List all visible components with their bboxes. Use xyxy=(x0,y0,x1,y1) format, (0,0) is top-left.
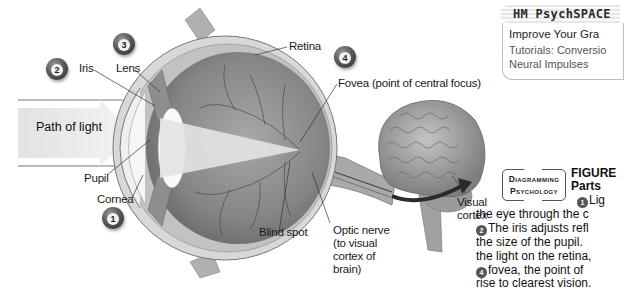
caption-line-3: 2The iris adjusts refl xyxy=(476,221,589,236)
badge-cornea: 1 xyxy=(102,207,124,229)
caption-text: the size of the pupil. xyxy=(476,235,583,249)
tag-line2: Psychology xyxy=(502,186,566,196)
label-blind-spot: Blind spot xyxy=(259,226,308,239)
psychspace-line3[interactable]: Neural Impulses xyxy=(509,58,588,70)
caption-text: Lig xyxy=(589,193,605,207)
caption-line-4: the size of the pupil. xyxy=(476,235,583,249)
caption-text: the eye through the c xyxy=(476,207,589,221)
label-fovea: Fovea (point of central focus) xyxy=(338,77,481,90)
caption-text: fovea, the point of xyxy=(488,263,583,277)
diagramming-psychology-tag: Diagramming Psychology xyxy=(502,169,566,201)
label-cornea: Cornea xyxy=(97,193,134,206)
psychspace-line2[interactable]: Tutorials: Conversio xyxy=(509,44,606,56)
label-optic-nerve-3: cortex of xyxy=(333,250,375,263)
label-retina: Retina xyxy=(289,40,321,53)
caption-text: The iris adjusts refl xyxy=(488,221,589,235)
caption-line-7: rise to clearest vision. xyxy=(476,276,591,290)
label-lens: Lens xyxy=(116,62,140,75)
label-path-of-light: Path of light xyxy=(36,120,102,134)
badge-iris: 2 xyxy=(46,58,68,80)
caption-line-1: 1Lig xyxy=(577,193,605,208)
figure-subtitle: Parts xyxy=(571,179,601,193)
caption-line-2: the eye through the c xyxy=(476,207,589,221)
caption-line-5: the light on the retina, xyxy=(476,249,591,263)
label-optic-nerve-4: brain) xyxy=(333,263,361,276)
badge-lens: 3 xyxy=(113,33,135,55)
tag-frame-gap xyxy=(524,167,542,172)
label-optic-nerve-2: (to visual xyxy=(333,237,377,250)
psychspace-header: HM PsychSPACE xyxy=(513,7,611,21)
tag-frame-gap xyxy=(524,198,542,203)
brain-illustration xyxy=(379,100,485,252)
psychspace-line1: Improve Your Gra xyxy=(509,28,599,40)
psychspace-box[interactable]: HM PsychSPACE Improve Your Gra Tutorials… xyxy=(500,5,620,81)
caption-text: rise to clearest vision. xyxy=(476,276,591,290)
caption-text: the light on the retina, xyxy=(476,249,591,263)
label-iris: Iris xyxy=(79,62,94,75)
label-pupil: Pupil xyxy=(84,172,109,185)
label-optic-nerve-1: Optic nerve xyxy=(333,224,390,237)
badge-fovea: 4 xyxy=(334,46,356,68)
figure-title: FIGURE xyxy=(571,166,616,180)
tag-line1: Diagramming xyxy=(502,174,566,184)
